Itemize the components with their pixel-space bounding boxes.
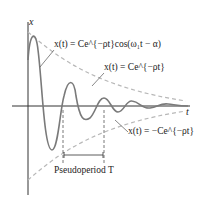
label-lower-envelope: x(t) = −Ce^{−ρt}	[128, 126, 194, 136]
label-pseudoperiod: Pseudoperiod T	[54, 165, 114, 175]
label-upper-envelope: x(t) = Ce^{−ρt}	[104, 62, 165, 72]
label-oscillation: x(t) = Ce^{−ρt}cos(ω₁t − α)	[54, 39, 161, 49]
oscillation-leader	[40, 50, 54, 67]
axis-label-t: t	[186, 106, 189, 117]
lower-envelope-leader	[115, 120, 128, 132]
axis-label-x: x	[29, 16, 33, 27]
